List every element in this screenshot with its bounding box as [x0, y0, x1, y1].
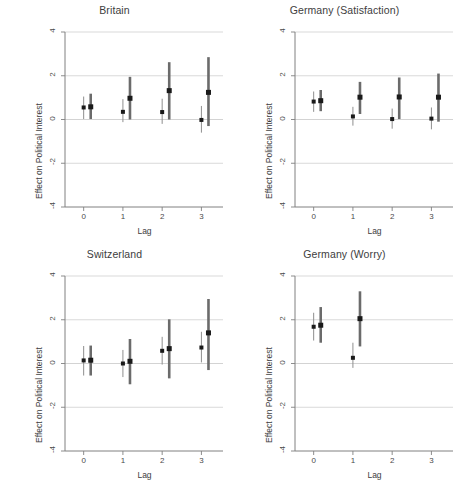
estimate-marker [312, 325, 316, 329]
y-tick-label: 0 [48, 112, 57, 124]
estimate-marker [121, 110, 125, 114]
y-axis-title: Effect on Political Interest [34, 347, 44, 443]
estimate-marker [357, 95, 362, 100]
y-tick-label: 4 [278, 25, 287, 37]
y-tick-label: -2 [48, 156, 57, 168]
x-tick-label: 2 [385, 456, 399, 465]
x-tick-label: 1 [346, 456, 360, 465]
y-tick-label: 2 [48, 68, 57, 80]
estimate-marker [82, 105, 86, 109]
y-axis-title: Effect on Political Interest [264, 103, 274, 199]
y-tick-label: -2 [278, 400, 287, 412]
y-tick-label: 4 [48, 269, 57, 281]
y-tick-label: 0 [48, 356, 57, 368]
estimate-marker [312, 100, 316, 104]
estimate-marker [82, 358, 86, 362]
x-tick-label: 3 [424, 456, 438, 465]
x-axis-title: Lag [296, 226, 453, 236]
x-axis-title: Lag [66, 470, 223, 480]
x-tick-label: 0 [77, 212, 91, 221]
x-tick-label: 1 [346, 212, 360, 221]
y-tick-label: 2 [278, 312, 287, 324]
x-tick-label: 2 [385, 212, 399, 221]
estimate-marker [351, 114, 355, 118]
estimate-marker [351, 356, 355, 360]
panel-germany-satisfaction: Germany (Satisfaction) 420-2-40123LagEff… [230, 0, 459, 244]
x-axis-title: Lag [66, 226, 223, 236]
x-axis-title: Lag [296, 470, 453, 480]
y-tick-label: -4 [278, 444, 287, 456]
x-tick-label: 3 [424, 212, 438, 221]
x-tick-label: 2 [155, 456, 169, 465]
x-tick-label: 0 [77, 456, 91, 465]
x-tick-label: 0 [307, 456, 321, 465]
x-tick-label: 3 [194, 212, 208, 221]
estimate-marker [121, 362, 125, 366]
estimate-marker [167, 346, 172, 351]
estimate-marker [397, 94, 402, 99]
estimate-marker [199, 118, 203, 122]
y-tick-label: 2 [48, 312, 57, 324]
estimate-marker [88, 358, 93, 363]
x-tick-label: 3 [194, 456, 208, 465]
panel-switzerland: Switzerland 420-2-40123LagEffect on Poli… [0, 244, 229, 488]
estimate-marker [436, 95, 441, 100]
estimate-marker [160, 110, 164, 114]
y-tick-label: 4 [278, 269, 287, 281]
estimate-marker [390, 117, 394, 121]
panel-britain: Britain 420-2-40123LagEffect on Politica… [0, 0, 229, 244]
y-tick-label: 4 [48, 25, 57, 37]
estimate-marker [127, 96, 132, 101]
panel-germany-worry: Germany (Worry) 420-2-40123LagEffect on … [230, 244, 459, 488]
y-tick-label: -4 [278, 200, 287, 212]
estimate-marker [167, 88, 172, 93]
estimate-marker [206, 90, 211, 95]
estimate-marker [127, 359, 132, 364]
y-tick-label: 0 [278, 112, 287, 124]
estimate-marker [429, 117, 433, 121]
estimate-marker [318, 98, 323, 103]
estimate-marker [206, 330, 211, 335]
x-tick-label: 2 [155, 212, 169, 221]
estimate-marker [160, 349, 164, 353]
figure-panel-grid: Britain 420-2-40123LagEffect on Politica… [0, 0, 459, 488]
y-tick-label: 2 [278, 68, 287, 80]
y-tick-label: 0 [278, 356, 287, 368]
y-tick-label: -4 [48, 444, 57, 456]
y-tick-label: -2 [278, 156, 287, 168]
y-axis-title: Effect on Political Interest [34, 103, 44, 199]
y-tick-label: -2 [48, 400, 57, 412]
estimate-marker [357, 316, 362, 321]
estimate-marker [318, 323, 323, 328]
estimate-marker [88, 104, 93, 109]
x-tick-label: 1 [116, 456, 130, 465]
y-tick-label: -4 [48, 200, 57, 212]
estimate-marker [199, 346, 203, 350]
x-tick-label: 1 [116, 212, 130, 221]
x-tick-label: 0 [307, 212, 321, 221]
y-axis-title: Effect on Political Interest [264, 347, 274, 443]
